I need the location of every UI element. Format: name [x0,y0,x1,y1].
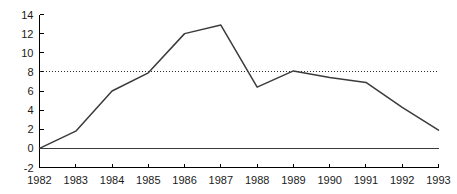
x-tick-label: 1982 [27,174,51,186]
y-tick-label: 0 [27,142,33,154]
y-tick-label: 14 [21,9,33,21]
x-tick-label: 1988 [245,174,269,186]
y-tick-label: 12 [21,28,33,40]
x-axis-tick-marks [40,164,439,168]
x-tick-label: 1989 [281,174,305,186]
y-axis-tick-marks [40,15,44,168]
y-axis-tick-labels: -202468101214 [21,9,33,174]
x-tick-label: 1990 [317,174,341,186]
y-tick-label: 10 [21,47,33,59]
x-tick-label: 1986 [172,174,196,186]
x-tick-label: 1987 [209,174,233,186]
x-tick-label: 1984 [100,174,124,186]
x-axis-tick-labels: 1982198319841985198619871988198919901991… [27,174,450,186]
y-tick-label: 4 [27,104,33,116]
y-tick-label: 6 [27,85,33,97]
y-tick-label: -2 [24,162,34,174]
x-tick-label: 1991 [354,174,378,186]
y-tick-label: 2 [27,123,33,135]
data-series-line [40,25,439,148]
x-tick-label: 1993 [426,174,450,186]
x-tick-label: 1992 [390,174,414,186]
y-tick-label: 8 [27,66,33,78]
x-tick-label: 1985 [136,174,160,186]
chart-canvas: -202468101214 19821983198419851986198719… [0,0,457,194]
x-tick-label: 1983 [64,174,88,186]
line-chart: -202468101214 19821983198419851986198719… [0,0,457,194]
